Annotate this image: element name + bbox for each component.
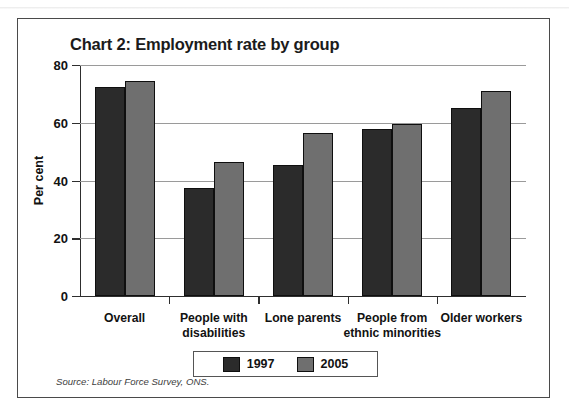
y-axis-tick-label: 0 bbox=[61, 289, 68, 304]
bar-1997-4 bbox=[451, 108, 481, 296]
bar-group bbox=[258, 65, 347, 296]
bar-group bbox=[80, 65, 169, 296]
chart-figure-frame: Chart 2: Employment rate by group Per ce… bbox=[17, 18, 550, 398]
plot-area: 020406080 OverallPeople withdisabilities… bbox=[80, 65, 526, 296]
bar-2005-2 bbox=[303, 133, 333, 296]
bar-2005-0 bbox=[125, 81, 155, 296]
chart-legend: 19972005 bbox=[193, 351, 378, 377]
x-axis-tick-mark bbox=[437, 296, 438, 304]
x-axis-tick-mark bbox=[348, 296, 349, 304]
category-label-line: ethnic minorities bbox=[340, 326, 445, 341]
chart-title: Chart 2: Employment rate by group bbox=[70, 35, 339, 54]
y-axis-label: Per cent bbox=[30, 65, 48, 296]
y-axis-tick-mark bbox=[72, 238, 80, 239]
legend-swatch-1997 bbox=[223, 357, 240, 372]
bar-1997-3 bbox=[362, 129, 392, 296]
category-label-4: Older workers bbox=[429, 311, 534, 326]
x-axis-tick-mark bbox=[169, 296, 170, 304]
y-axis-tick-mark bbox=[72, 181, 80, 182]
legend-swatch-2005 bbox=[297, 357, 314, 372]
legend-label-1997: 1997 bbox=[247, 357, 275, 371]
category-label-line: disabilities bbox=[161, 326, 266, 341]
bar-2005-3 bbox=[392, 124, 422, 296]
y-axis-tick-mark bbox=[72, 123, 80, 124]
bar-2005-1 bbox=[214, 162, 244, 296]
source-note: Source: Labour Force Survey, ONS. bbox=[56, 376, 209, 387]
y-axis-tick-mark bbox=[72, 296, 80, 297]
bar-1997-1 bbox=[184, 188, 214, 296]
bar-1997-0 bbox=[95, 87, 125, 296]
legend-entry-2005: 2005 bbox=[297, 357, 349, 372]
y-axis-tick-label: 20 bbox=[54, 231, 68, 246]
y-axis-tick-mark bbox=[72, 65, 80, 66]
legend-entry-1997: 1997 bbox=[223, 357, 275, 372]
bar-2005-4 bbox=[481, 91, 511, 296]
y-axis-tick-label: 40 bbox=[54, 173, 68, 188]
y-axis-tick-label: 80 bbox=[54, 58, 68, 73]
bar-group bbox=[169, 65, 258, 296]
bar-group bbox=[437, 65, 526, 296]
page-cutoff-artifact bbox=[0, 0, 569, 12]
x-axis-line bbox=[72, 296, 526, 297]
legend-label-2005: 2005 bbox=[321, 357, 349, 371]
x-axis-tick-mark bbox=[258, 296, 259, 304]
bar-1997-2 bbox=[273, 165, 303, 296]
y-axis-tick-label: 60 bbox=[54, 115, 68, 130]
category-label-line: Older workers bbox=[429, 311, 534, 326]
bar-group bbox=[348, 65, 437, 296]
